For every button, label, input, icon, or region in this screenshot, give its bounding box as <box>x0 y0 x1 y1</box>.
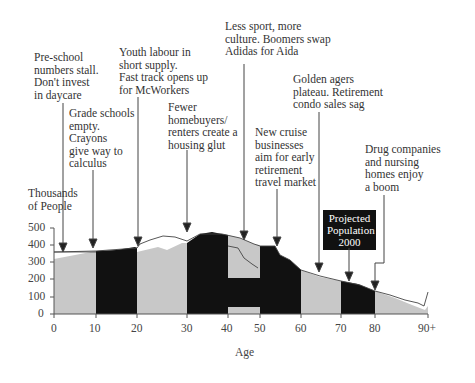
y-tick-0: 0 <box>38 307 44 319</box>
x-tick-0: 0 <box>51 322 57 334</box>
band-40-50-bottom <box>228 307 260 314</box>
band-10-20 <box>96 247 137 314</box>
y-tick-500: 500 <box>28 221 45 233</box>
band-40-50-top <box>228 235 260 278</box>
x-tick-60: 60 <box>295 322 307 334</box>
x-tick-40: 40 <box>221 322 233 334</box>
x-tick-20: 20 <box>131 322 143 334</box>
band-0-10 <box>54 251 96 314</box>
band-20-30 <box>137 243 187 314</box>
x-tick-10: 10 <box>89 322 101 334</box>
chart-canvas <box>0 0 475 383</box>
band-30-40 <box>187 232 228 314</box>
x-tick-50: 50 <box>254 322 266 334</box>
x-tick-30: 30 <box>181 322 193 334</box>
band-40-50-mid <box>228 278 260 307</box>
x-tick-80: 80 <box>369 322 381 334</box>
x-tick-90plus: 90+ <box>418 322 436 334</box>
x-tick-70: 70 <box>335 322 347 334</box>
y-tick-100: 100 <box>28 290 45 302</box>
x-axis-label: Age <box>235 346 254 358</box>
band-50-60 <box>260 246 301 314</box>
y-tick-300: 300 <box>28 255 45 267</box>
band-80-90 <box>375 291 428 314</box>
y-tick-400: 400 <box>28 238 45 250</box>
band-70-80 <box>341 281 375 314</box>
y-tick-200: 200 <box>28 272 45 284</box>
